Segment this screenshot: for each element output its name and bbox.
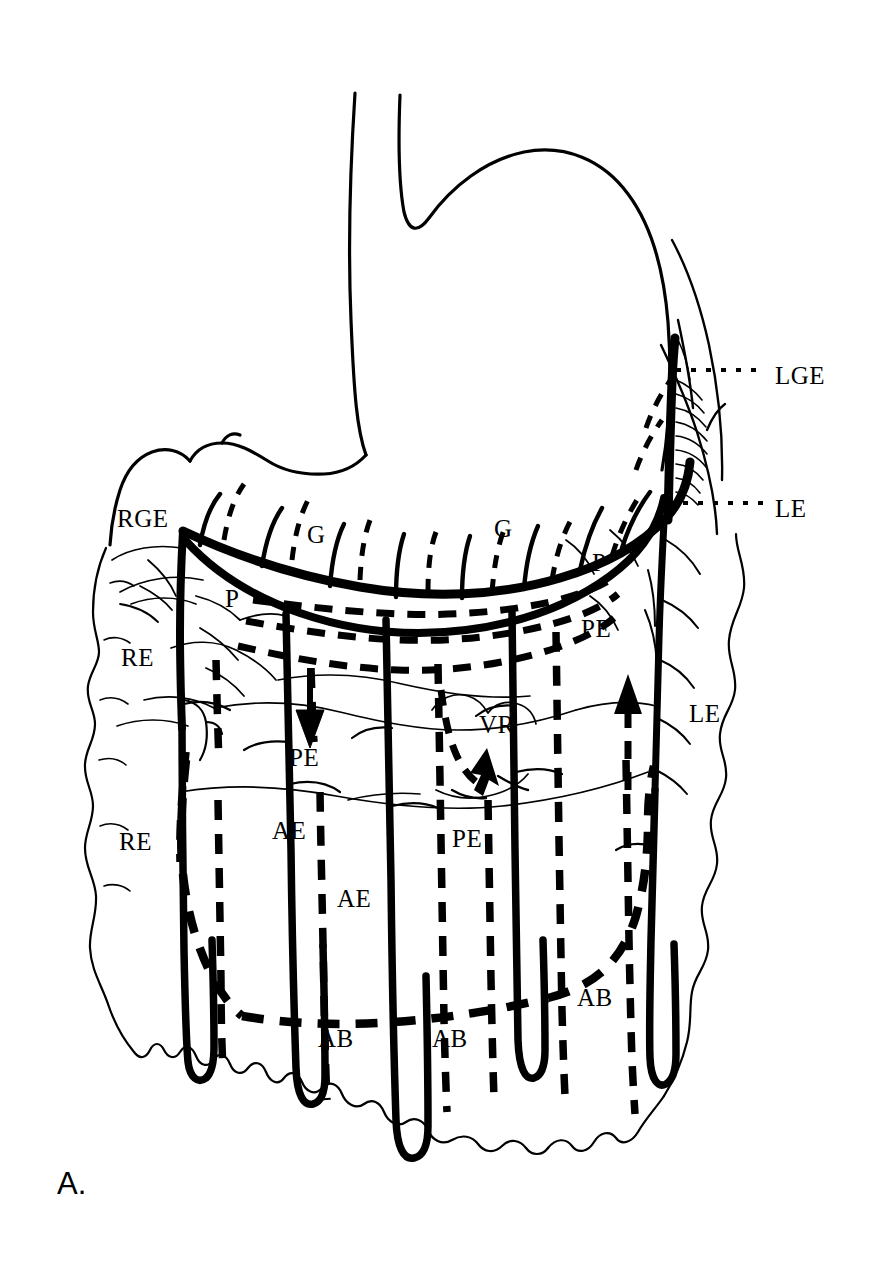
label-rge: RGE bbox=[117, 506, 169, 531]
label-pe-left: PE bbox=[289, 745, 319, 770]
anterior-epiploic-arteries bbox=[182, 612, 676, 1158]
flow-arrow-up bbox=[614, 674, 642, 790]
label-pe-mid: PE bbox=[452, 826, 482, 851]
label-perforating-left: P bbox=[225, 586, 239, 611]
anterior-epiploic-twigs bbox=[184, 702, 652, 850]
figure-panel-a: LGE LE RGE G G P P PE RE VR LE PE AE RE … bbox=[0, 0, 870, 1268]
label-pe-right: PE bbox=[581, 616, 611, 641]
label-gastric-branch-2: G bbox=[494, 516, 513, 541]
gastroepiploic-arcade bbox=[180, 338, 690, 790]
label-ab-right: AB bbox=[577, 985, 613, 1010]
panel-label-a: A. bbox=[57, 1168, 86, 1199]
gastric-branches bbox=[200, 492, 650, 598]
label-ae-1: AE bbox=[272, 818, 306, 843]
label-perforating-right: P bbox=[592, 550, 606, 575]
label-lge: LGE bbox=[775, 363, 825, 388]
stomach-outline bbox=[110, 93, 670, 545]
label-ae-2: AE bbox=[337, 886, 371, 911]
label-ab-1: AB bbox=[318, 1026, 354, 1051]
splenic-hilum-branches bbox=[676, 340, 707, 505]
label-le-top: LE bbox=[775, 496, 807, 521]
label-vr: VR bbox=[479, 712, 515, 737]
label-re-lower: RE bbox=[119, 829, 152, 854]
label-re-upper: RE bbox=[121, 645, 154, 670]
vr-arrow-head bbox=[470, 748, 499, 796]
label-le-side: LE bbox=[689, 701, 721, 726]
label-ab-2: AB bbox=[432, 1026, 468, 1051]
label-gastric-branch-1: G bbox=[307, 522, 326, 547]
omentum-diagram bbox=[0, 0, 870, 1268]
